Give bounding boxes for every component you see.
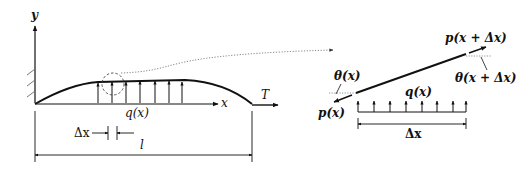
left-force-label: p(x): [318, 107, 345, 119]
right-load-label: q(x): [405, 86, 432, 98]
deflected-string: [35, 80, 252, 104]
right-delta-x-label: Δx: [405, 128, 421, 140]
right-angle-label: θ(x + Δx): [455, 72, 516, 84]
zoom-connector: [121, 50, 333, 73]
string-diagram-figure: y x T q(x) Δx l p(x) p(x + Δx) θ(x) θ(x …: [0, 0, 531, 172]
left-load-label: q(x): [125, 107, 149, 119]
element-load-arrows: [358, 101, 466, 112]
element-width-dimension: [92, 126, 134, 140]
right-force-arrow: [469, 47, 486, 53]
distributed-load-arrows: [98, 81, 182, 103]
diagram-svg: [0, 0, 531, 172]
tension-label: T: [261, 89, 269, 101]
wall-hatch: [27, 69, 35, 97]
left-force-arrow: [334, 95, 352, 102]
left-angle-leader: [336, 84, 341, 94]
x-axis-label: x: [221, 97, 228, 109]
right-force-label: p(x + Δx): [445, 32, 507, 44]
left-delta-x-label: Δx: [74, 127, 89, 139]
span-label: l: [140, 139, 144, 151]
left-panel: [27, 26, 333, 162]
zoom-circle: [102, 73, 124, 95]
left-angle-label: θ(x): [334, 70, 361, 82]
y-axis-label: y: [31, 9, 38, 21]
right-angle-leader: [481, 57, 487, 70]
